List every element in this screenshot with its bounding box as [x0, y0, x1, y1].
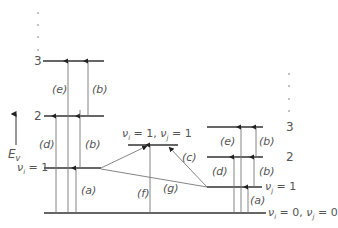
axis-label-main: E [8, 147, 16, 161]
continuation-dots-right [288, 73, 290, 112]
transition-g [101, 169, 207, 187]
level-value: = 1, [130, 127, 160, 140]
right-label-e: (e) [220, 136, 235, 147]
right-label-b1: (b) [259, 166, 275, 177]
right-label-b2: (b) [259, 136, 275, 147]
ground-level-label: νi = 0, νj = 0 [268, 207, 338, 221]
left-label-e: (e) [52, 84, 67, 95]
transition-left-to-combination [101, 146, 147, 168]
label-g: (g) [163, 183, 179, 194]
right-level-2-label: 2 [286, 151, 294, 163]
right-level-3-label: 3 [286, 121, 294, 133]
continuation-dots-left [37, 12, 39, 51]
level-value: = 0, [276, 206, 306, 219]
left-label-b2: (b) [92, 84, 108, 95]
label-f: (f) [137, 188, 149, 199]
label-c: (c) [182, 152, 197, 163]
level-value: = 1 [168, 127, 191, 140]
left-level-2-label: 2 [34, 110, 42, 122]
left-level-1-label: νi = 1 [17, 162, 48, 176]
left-label-d: (d) [39, 139, 55, 150]
right-level-1-label: νj = 1 [265, 181, 296, 195]
level-value: = 1 [25, 161, 48, 174]
left-label-b1: (b) [85, 139, 101, 150]
left-label-a: (a) [81, 185, 96, 196]
right-label-d: (d) [212, 166, 228, 177]
level-value: = 0 [314, 206, 337, 219]
right-label-a: (a) [250, 195, 265, 206]
combination-level-label: νi = 1, νj = 1 [122, 128, 192, 142]
left-level-3-label: 3 [34, 55, 42, 67]
level-value: = 1 [273, 180, 296, 193]
